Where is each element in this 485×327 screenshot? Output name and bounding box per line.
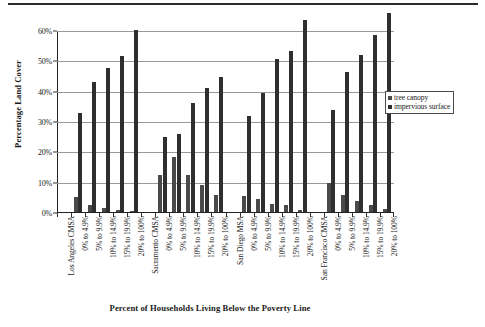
bar-impervious-surface — [163, 137, 167, 212]
x-axis-category-label: 15% to 19.9% — [207, 216, 216, 258]
bar-tree-canopy — [74, 197, 78, 212]
bar-impervious-surface — [345, 72, 349, 212]
x-axis-group-label: San Francisco CMSA — [320, 216, 329, 280]
bar-impervious-surface — [191, 103, 195, 212]
y-axis-tick-label: 20% — [38, 148, 52, 157]
x-axis-category-label: 15% to 19.9% — [376, 216, 385, 258]
y-axis-tick-label: 50% — [38, 57, 52, 66]
bar-impervious-surface — [134, 30, 138, 212]
bar-tree-canopy — [172, 157, 176, 212]
x-axis-category-label: 10% to 14.9% — [193, 216, 202, 258]
bar-impervious-surface — [289, 51, 293, 212]
x-axis-group-label: Los Angeles CMSA — [67, 216, 76, 276]
legend-swatch-impervious-surface-icon — [388, 105, 392, 109]
y-axis-tick-label: 60% — [38, 27, 52, 36]
bar-impervious-surface — [219, 77, 223, 212]
x-axis-category-label: 15% to 19.9% — [123, 216, 132, 258]
bar-impervious-surface — [177, 134, 181, 212]
bar-impervious-surface — [261, 93, 265, 212]
bar-impervious-surface — [247, 116, 251, 212]
bar-impervious-surface — [92, 82, 96, 212]
chart-figure: Percentage Land Cover 0%10%20%30%40%50%6… — [0, 0, 485, 327]
x-axis-category-label: 0% to 4.9% — [81, 216, 90, 251]
x-axis-title: Percent of Households Living Below the P… — [0, 303, 420, 313]
legend-label-impervious-surface: impervious surface — [394, 103, 450, 112]
x-axis-category-label: 5% to 9.9% — [95, 216, 104, 251]
bar-impervious-surface — [78, 113, 82, 212]
y-axis-tick-label: 10% — [38, 178, 52, 187]
bar-tree-canopy — [270, 204, 274, 212]
x-axis-category-label: 0% to 4.9% — [165, 216, 174, 251]
x-axis-category-label: 0% to 4.9% — [250, 216, 259, 251]
y-axis-tick-label: 40% — [38, 87, 52, 96]
x-axis-category-label: 20% to 100% — [137, 216, 146, 256]
bar-tree-canopy — [341, 195, 345, 212]
x-axis-category-label: 5% to 9.9% — [348, 216, 357, 251]
y-axis-tick-label: 0% — [42, 209, 52, 218]
bar-tree-canopy — [284, 205, 288, 212]
bar-tree-canopy — [130, 211, 134, 212]
bar-impervious-surface — [331, 110, 335, 212]
bar-impervious-surface — [275, 59, 279, 212]
x-axis-category-label: 0% to 4.9% — [334, 216, 343, 251]
x-axis-group-label: San Diego MSA — [236, 216, 245, 265]
bar-tree-canopy — [383, 209, 387, 212]
x-axis-group-label: Sacramento CMSA — [151, 216, 160, 274]
bar-impervious-surface — [205, 88, 209, 212]
y-axis-title: Percentage Land Cover — [13, 60, 23, 148]
bar-impervious-surface — [359, 55, 363, 212]
bar-impervious-surface — [303, 20, 307, 212]
bar-tree-canopy — [369, 205, 373, 212]
legend-item-impervious-surface: impervious surface — [388, 103, 450, 112]
bar-tree-canopy — [200, 185, 204, 212]
x-axis-category-label: 5% to 9.9% — [179, 216, 188, 251]
x-axis-category-label: 10% to 14.9% — [109, 216, 118, 258]
bar-tree-canopy — [355, 201, 359, 212]
bar-tree-canopy — [186, 175, 190, 212]
bar-tree-canopy — [298, 210, 302, 212]
x-axis-category-label: 20% to 100% — [221, 216, 230, 256]
top-horizontal-rule — [8, 3, 478, 5]
bar-tree-canopy — [242, 196, 246, 212]
bar-impervious-surface — [106, 68, 110, 212]
bar-tree-canopy — [158, 175, 162, 212]
x-axis-category-label: 10% to 14.9% — [278, 216, 287, 258]
x-axis-category-label: 20% to 100% — [390, 216, 399, 256]
bar-impervious-surface — [373, 35, 377, 212]
x-axis-category-label: 10% to 14.9% — [362, 216, 371, 258]
bar-tree-canopy — [214, 195, 218, 212]
legend-swatch-tree-canopy-icon — [388, 96, 392, 100]
x-axis-category-label: 5% to 9.9% — [264, 216, 273, 251]
bar-tree-canopy — [88, 205, 92, 212]
chart-legend: tree canopy impervious surface — [385, 91, 454, 114]
y-axis-tick-label: 30% — [38, 118, 52, 127]
bar-tree-canopy — [256, 199, 260, 212]
bar-impervious-surface — [120, 56, 124, 212]
bar-tree-canopy — [102, 208, 106, 212]
plot-area: 0%10%20%30%40%50%60% — [57, 31, 394, 213]
x-axis-category-label: 20% to 100% — [306, 216, 315, 256]
bars-layer — [57, 31, 394, 213]
x-axis-category-label: 15% to 19.9% — [292, 216, 301, 258]
x-axis-labels: Los Angeles CMSA0% to 4.9%5% to 9.9%10% … — [57, 214, 394, 300]
bar-tree-canopy — [116, 210, 120, 212]
bar-tree-canopy — [327, 183, 331, 212]
